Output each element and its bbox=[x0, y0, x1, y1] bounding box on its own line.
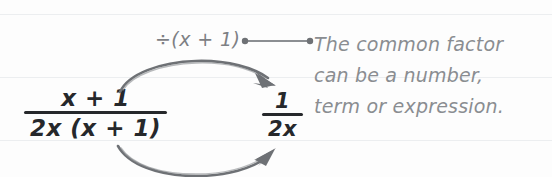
callout-line-3: term or expression. bbox=[314, 91, 552, 122]
callout-line-1: The common factor bbox=[314, 29, 552, 60]
callout-line-2: can be a number, bbox=[314, 60, 552, 91]
worked-example-diagram: x + 1 2x (x + 1) 1 2x ÷(x + 1) The commo… bbox=[0, 0, 552, 177]
divide-top-arrowhead-core bbox=[255, 73, 275, 88]
divide-top-arrowhead bbox=[253, 72, 276, 88]
ruled-line bbox=[0, 14, 552, 15]
callout-leader-dot-left bbox=[242, 38, 248, 44]
divide-bottom-arrowhead bbox=[254, 148, 276, 166]
divide-bottom-arc-shadow bbox=[121, 148, 263, 174]
divide-bottom-arrowhead-core bbox=[255, 149, 275, 166]
left-fraction-denominator: 2x (x + 1) bbox=[24, 114, 167, 140]
left-fraction-numerator: x + 1 bbox=[24, 86, 167, 111]
right-fraction-denominator: 2x bbox=[262, 116, 303, 140]
operation-label: ÷(x + 1) bbox=[155, 28, 240, 50]
divide-bottom-arc bbox=[118, 146, 266, 176]
callout-leader-dot-right bbox=[307, 38, 313, 44]
right-fraction-numerator: 1 bbox=[262, 90, 303, 113]
callout-annotation: The common factor can be a number, term … bbox=[314, 29, 552, 122]
left-fraction: x + 1 2x (x + 1) bbox=[24, 86, 167, 140]
right-fraction: 1 2x bbox=[262, 90, 303, 140]
